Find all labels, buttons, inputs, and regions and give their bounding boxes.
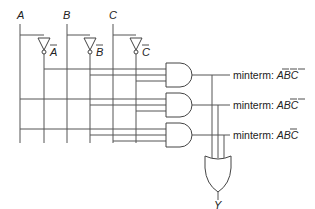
minterm-label-2: minterm: ABC — [233, 99, 305, 111]
input-label-b: B — [63, 9, 70, 21]
input-rails — [20, 24, 136, 143]
and-gate-2 — [166, 93, 192, 117]
output-label-y: Y — [214, 199, 222, 209]
svg-text:minterm: ABC: minterm: ABC — [233, 69, 299, 81]
inverter-b — [84, 38, 96, 54]
inverter-c — [130, 38, 142, 54]
and-input-wires — [20, 69, 166, 141]
minterm-label-1: minterm: ABC — [233, 69, 305, 81]
svg-text:minterm: ABC: minterm: ABC — [233, 99, 299, 111]
input-label-c: C — [109, 9, 117, 21]
input-label-a: A — [16, 9, 24, 21]
and-gate-3 — [166, 123, 192, 147]
inv-label-b: B — [96, 46, 103, 58]
minterm-wires — [192, 75, 230, 158]
inverter-a — [38, 38, 50, 54]
svg-text:minterm: ABC: minterm: ABC — [233, 129, 299, 141]
minterm-label-3: minterm: ABC — [233, 129, 299, 141]
inv-label-c: C — [142, 46, 150, 58]
inv-label-a: A — [49, 46, 57, 58]
and-gate-1 — [166, 63, 192, 87]
or-gate — [205, 156, 231, 192]
logic-circuit-diagram: A B C A B C — [0, 0, 315, 209]
